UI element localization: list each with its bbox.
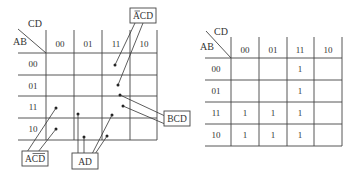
left-kmap: CD AB 00 01 11 10 00 01 11 10 [13,8,190,169]
row-var-label: AB [200,41,214,52]
cell: 1 [298,108,303,118]
row-header: 00 [29,59,39,69]
row-header: 11 [212,108,221,118]
col-header: 01 [84,39,93,49]
group-label-bcd: BCD [164,111,190,126]
cell: 1 [271,108,276,118]
col-header: 00 [241,45,251,55]
cell: 1 [298,64,303,74]
col-var-label: CD [214,26,228,37]
col-header: 11 [112,39,121,49]
group-label-a-bar-cd: ACD [130,8,156,23]
cell: 1 [243,130,248,140]
cell: 1 [271,130,276,140]
group-label-a-c-bar-d: ACD [22,151,48,166]
col-header: 10 [324,45,334,55]
svg-text:ACD: ACD [25,154,45,164]
right-kmap: CD AB 00 01 11 10 00 01 11 10 1 [200,26,342,146]
cell: 1 [243,108,248,118]
row-header: 00 [212,64,222,74]
row-header: 10 [212,130,222,140]
col-header: 11 [296,45,305,55]
svg-text:BCD: BCD [167,114,187,124]
col-header: 10 [140,39,150,49]
row-header: 11 [29,102,38,112]
cell: 1 [298,130,303,140]
col-header: 00 [56,39,66,49]
kmap-diagram: CD AB 00 01 11 10 00 01 11 10 [0,0,357,179]
svg-text:ACD: ACD [133,11,153,21]
group-label-ad: AD [72,153,98,169]
col-var-label: CD [28,18,42,29]
cell: 1 [298,86,303,96]
svg-text:AD: AD [78,157,92,167]
row-header: 10 [29,124,39,134]
row-header: 01 [212,86,221,96]
col-header: 01 [269,45,278,55]
row-var-label: AB [13,36,27,47]
row-header: 01 [29,81,38,91]
